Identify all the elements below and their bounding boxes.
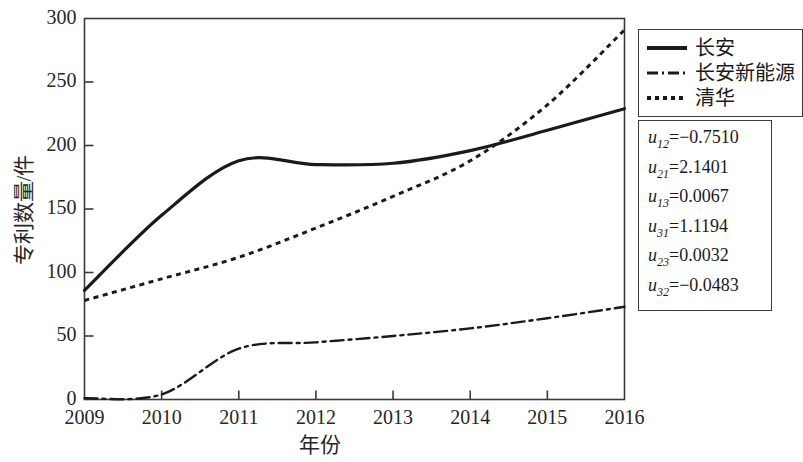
parameter-symbol: u [648, 216, 657, 236]
legend-item-label: 长安 [695, 38, 735, 58]
parameter-row: u23=0.0032 [648, 244, 767, 274]
parameter-symbol: u [648, 275, 657, 295]
legend-item[interactable]: 长安 [646, 35, 796, 60]
parameter-symbol: u [648, 245, 657, 265]
parameter-row: u13=0.0067 [648, 185, 767, 215]
parameter-subscript: 13 [657, 196, 669, 210]
parameter-subscript: 21 [657, 166, 669, 180]
parameter-value: =2.1401 [669, 157, 729, 177]
legend: 长安长安新能源清华 [638, 29, 803, 117]
parameter-value: =−0.7510 [669, 127, 739, 147]
parameter-value: =0.0032 [669, 245, 729, 265]
y-axis-ticks [85, 82, 94, 336]
legend-line-swatch-solid-icon [646, 41, 688, 55]
plot-frame [85, 19, 625, 400]
x-tick-label: 2014 [430, 406, 510, 429]
parameter-subscript: 23 [657, 255, 669, 269]
legend-item-label: 长安新能源 [695, 63, 795, 83]
legend-line-swatch-dash-dot-icon [646, 66, 688, 80]
parameter-value: =1.1194 [669, 216, 728, 236]
parameter-row: u32=−0.0483 [648, 274, 767, 304]
parameter-symbol: u [648, 157, 657, 177]
x-tick-label: 2015 [507, 406, 587, 429]
legend-item[interactable]: 长安新能源 [646, 60, 796, 85]
x-axis-ticks [162, 391, 548, 400]
series-line-2 [85, 307, 625, 399]
parameter-row: u31=1.1194 [648, 215, 767, 245]
legend-item-label: 清华 [695, 88, 735, 108]
x-tick-label: 2016 [585, 406, 665, 429]
x-tick-label: 2012 [276, 406, 356, 429]
x-tick-label: 2009 [45, 406, 125, 429]
parameter-symbol: u [648, 186, 657, 206]
parameter-row: u21=2.1401 [648, 156, 767, 186]
x-tick-label: 2010 [122, 406, 202, 429]
y-axis-title: 专利数量/件 [7, 100, 37, 320]
series-line-1 [85, 109, 625, 291]
parameter-value: =0.0067 [669, 186, 729, 206]
parameter-value: =−0.0483 [669, 275, 739, 295]
x-tick-label: 2011 [199, 406, 279, 429]
y-tick-label: 250 [0, 69, 77, 92]
y-tick-label: 50 [0, 323, 77, 346]
legend-item[interactable]: 清华 [646, 85, 796, 110]
parameter-subscript: 31 [657, 225, 669, 239]
parameters-annotation-box: u12=−0.7510u21=2.1401u13=0.0067u31=1.119… [638, 120, 772, 311]
x-axis-title: 年份 [0, 428, 640, 458]
data-series-group [85, 30, 625, 399]
parameter-symbol: u [648, 127, 657, 147]
x-tick-label: 2013 [353, 406, 433, 429]
parameter-subscript: 12 [657, 137, 669, 151]
parameter-subscript: 32 [657, 285, 669, 299]
y-tick-label: 300 [0, 6, 77, 29]
legend-line-swatch-dotted-icon [646, 91, 688, 105]
parameter-row: u12=−0.7510 [648, 126, 767, 156]
